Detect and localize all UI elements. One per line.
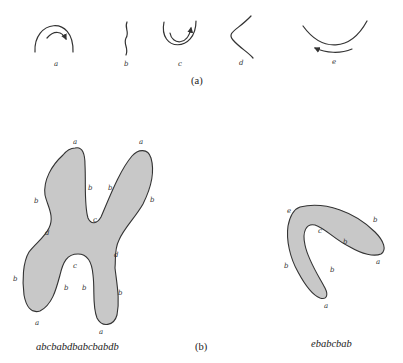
primitive-d-label: d [239, 59, 244, 67]
primitive-c: c [163, 21, 196, 68]
chromosome-bent-string: ebabcbab [311, 338, 352, 349]
label-b: b [108, 184, 113, 192]
label-b: b [88, 184, 93, 192]
primitive-e: e [303, 21, 367, 66]
part-b-caption: (b) [195, 341, 208, 353]
label-b: b [34, 197, 39, 205]
primitive-d: d [231, 16, 253, 67]
part-a-caption: (a) [191, 75, 203, 87]
label-d: d [45, 229, 50, 237]
label-a: a [324, 302, 328, 310]
primitive-b-label: b [124, 60, 129, 68]
primitive-a: a [35, 26, 73, 68]
label-b: b [82, 284, 87, 292]
label-b: b [150, 196, 155, 204]
primitive-c-label: c [178, 60, 182, 68]
label-d: d [114, 251, 119, 259]
label-c: c [93, 216, 97, 224]
label-b: b [284, 262, 289, 270]
primitive-a-label: a [54, 60, 58, 68]
chromosome-bent: e b a b c b b a [284, 205, 384, 310]
label-a: a [139, 138, 143, 146]
chromosome-x-string: abcbabdbabcbabdb [36, 341, 119, 352]
chromosome-x: a a b b b b c d d c b b b b a a [13, 138, 155, 336]
label-c: c [318, 227, 322, 235]
label-a: a [99, 328, 103, 336]
label-b: b [13, 275, 18, 283]
primitive-b: b [124, 22, 129, 68]
label-c: c [73, 262, 77, 270]
label-e: e [287, 207, 291, 215]
label-a: a [73, 138, 77, 146]
label-b: b [64, 284, 69, 292]
label-b: b [343, 238, 348, 246]
label-a: a [35, 319, 39, 327]
label-b: b [118, 289, 123, 297]
label-a: a [376, 258, 380, 266]
chromosome-grammar-diagram: a b c d e (a) a a b b b b c d d c b b b … [0, 0, 403, 363]
label-b: b [373, 216, 378, 224]
primitive-e-label: e [332, 58, 336, 66]
label-b: b [330, 266, 335, 274]
